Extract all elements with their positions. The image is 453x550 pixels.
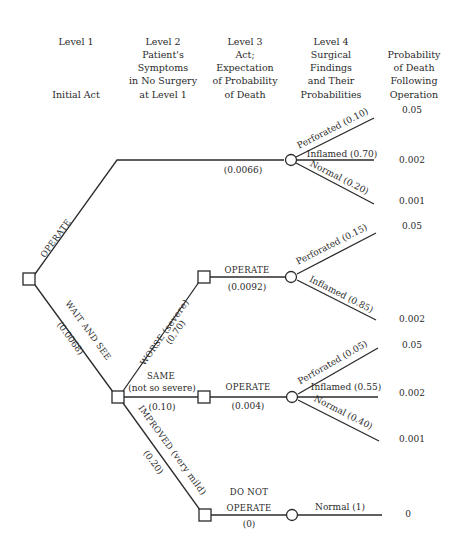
label-do-not-operate: OPERATE (227, 503, 272, 513)
death-improved-normal: 0 (405, 509, 411, 519)
header-level3-line: of Death (224, 89, 265, 100)
death-worse-inflamed: 0.002 (399, 314, 425, 324)
svg-text:Inflamed (0.85): Inflamed (0.85) (308, 274, 375, 315)
finding-prob: (1) (352, 502, 365, 512)
header-level2: Level 2 Patient's Symptoms in No Surgery… (129, 36, 198, 100)
symptom-note: (very mild) (169, 448, 208, 497)
value-same-expectation: (0.004) (232, 401, 265, 411)
finding-same-inflamed: Inflamed (0.55) (311, 382, 381, 392)
value-worse-expectation: (0.0092) (228, 282, 267, 292)
death-worse-perforated: 0.05 (402, 221, 422, 231)
finding-op-normal: Normal (0.20) (308, 158, 370, 196)
finding-prob: (0.15) (340, 222, 369, 243)
death-op-normal: 0.001 (399, 196, 425, 206)
decision-node-root (23, 273, 35, 285)
header-level5-line: Following (391, 75, 438, 86)
header-level5: Probability of Death Following Operation (388, 49, 441, 100)
finding-prob: (0.70) (350, 149, 377, 159)
symptom-name: WORSE (138, 332, 167, 367)
header-level3-line: of Probability (212, 75, 278, 86)
finding-prob: (0.40) (346, 410, 375, 431)
finding-name: Perforated (294, 236, 342, 267)
edge-improved (123, 403, 200, 510)
finding-name: Inflamed (311, 382, 352, 392)
label-same: SAME (147, 371, 175, 381)
label-operate: OPERATE (38, 217, 73, 259)
chance-node-worse-findings (286, 272, 297, 283)
value-improved-prob: (0.20) (141, 448, 165, 476)
chance-node-same-findings (287, 392, 298, 403)
header-level3-line: Level 3 (227, 36, 262, 47)
header-level5-line: Probability (388, 49, 441, 60)
value-improved-expectation: (0) (243, 519, 256, 529)
svg-text:WORSE (severe): WORSE (severe) (138, 297, 191, 367)
label-worse-operate: OPERATE (225, 265, 270, 275)
label-do-not: DO NOT (230, 487, 268, 497)
decision-tree-diagram: Level 1 Initial Act Level 2 Patient's Sy… (0, 0, 453, 550)
finding-name: Normal (315, 502, 349, 512)
finding-prob: (0.55) (354, 382, 381, 392)
chance-node-symptoms (112, 391, 124, 403)
finding-prob: (0.05) (340, 338, 368, 360)
header-level5-line: of Death (393, 62, 434, 73)
header-level4-line: Level 4 (313, 36, 348, 47)
finding-prob: (0.20) (342, 175, 371, 196)
header-level1-title: Level 1 (58, 36, 93, 47)
label-same-note: (not so severe) (128, 383, 196, 393)
header-level2-line: Level 2 (145, 36, 180, 47)
finding-prob: (0.10) (341, 106, 370, 127)
decision-node-worse (198, 271, 210, 283)
finding-improved-normal: Normal (1) (315, 502, 365, 512)
header-level5-line: Operation (390, 89, 438, 100)
header-level4-line: and Their (308, 75, 355, 86)
value-same-prob: (0.10) (148, 402, 175, 412)
header-level2-line: Symptoms (138, 62, 189, 73)
chance-node-operate-findings (286, 155, 297, 166)
chance-node-improved-findings (287, 510, 298, 521)
finding-name: Inflamed (308, 274, 349, 301)
header-level3-line: Act; (234, 49, 254, 60)
value-operate-expectation: (0.0066) (224, 165, 263, 175)
finding-op-inflamed: Inflamed (0.70) (307, 149, 377, 159)
header-level4-line: Probabilities (301, 89, 362, 100)
finding-same-perforated: Perforated (0.05) (296, 338, 369, 386)
header-level3: Level 3 Act; Expectation of Probability … (212, 36, 278, 100)
label-same-operate: OPERATE (226, 382, 271, 392)
decision-node-improved (199, 509, 211, 521)
label-worse: WORSE (severe) (138, 297, 191, 367)
svg-text:Perforated (0.15): Perforated (0.15) (294, 222, 368, 266)
header-level2-line: in No Surgery (129, 75, 198, 86)
header-level2-line: at Level 1 (139, 89, 187, 100)
edge-operate (35, 160, 284, 274)
header-level2-line: Patient's (142, 49, 184, 60)
svg-text:Perforated (0.10): Perforated (0.10) (295, 106, 369, 150)
header-level1: Level 1 Initial Act (52, 36, 100, 100)
finding-op-perforated: Perforated (0.10) (295, 106, 369, 150)
header-level4-line: Surgical (311, 49, 351, 60)
death-op-perforated: 0.05 (402, 105, 422, 115)
svg-text:Normal (0.20): Normal (0.20) (308, 158, 370, 196)
death-same-perforated: 0.05 (402, 340, 422, 350)
death-op-inflamed: 0.002 (399, 155, 425, 165)
svg-text:Perforated (0.05): Perforated (0.05) (296, 338, 369, 386)
finding-worse-inflamed: Inflamed (0.85) (308, 274, 375, 315)
header-level4-line: Findings (310, 62, 352, 73)
death-same-inflamed: 0.002 (399, 388, 425, 398)
header-level3-line: Expectation (216, 62, 274, 73)
finding-worse-perforated: Perforated (0.15) (294, 222, 368, 266)
death-same-normal: 0.001 (399, 434, 425, 444)
decision-node-same (198, 391, 210, 403)
header-level4: Level 4 Surgical Findings and Their Prob… (301, 36, 362, 100)
header-level1-subtitle: Initial Act (52, 89, 100, 100)
